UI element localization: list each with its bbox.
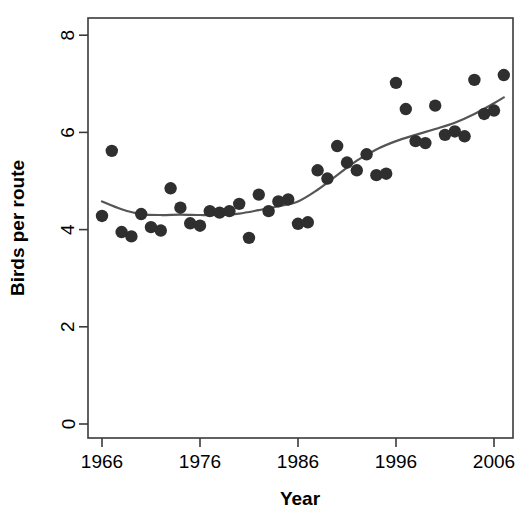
data-point [488, 104, 500, 116]
data-point [262, 205, 274, 217]
data-point [419, 137, 431, 149]
data-point [360, 148, 372, 160]
y-tick-label: 4 [58, 224, 79, 235]
x-tick-label: 1996 [375, 451, 417, 472]
y-axis-title: Birds per route [7, 160, 28, 296]
data-point [351, 164, 363, 176]
data-point [331, 140, 343, 152]
data-point [155, 224, 167, 236]
x-tick-label: 1976 [179, 451, 221, 472]
x-axis-title: Year [280, 488, 321, 509]
y-tick-label: 2 [58, 322, 79, 333]
x-tick-label: 1966 [81, 451, 123, 472]
data-point [233, 198, 245, 210]
data-point [390, 77, 402, 89]
data-point [429, 99, 441, 111]
data-point [282, 193, 294, 205]
y-tick-label: 8 [58, 30, 79, 41]
data-point [253, 188, 265, 200]
data-point [400, 103, 412, 115]
data-point [341, 156, 353, 168]
x-tick-label: 2006 [473, 451, 515, 472]
data-point [164, 182, 176, 194]
scatter-plot-svg: 02468 19661976198619962006 Year Birds pe… [0, 0, 530, 520]
data-point [223, 205, 235, 217]
trend-line-group [102, 97, 504, 215]
y-tick-label: 6 [58, 127, 79, 138]
x-axis: 19661976198619962006 [81, 438, 515, 472]
data-point [321, 172, 333, 184]
chart-container: 02468 19661976198619962006 Year Birds pe… [0, 0, 530, 520]
data-point [458, 130, 470, 142]
data-point [498, 69, 510, 81]
smoothed-trend-line [102, 97, 504, 215]
data-point [96, 210, 108, 222]
data-point [380, 168, 392, 180]
x-tick-label: 1986 [277, 451, 319, 472]
data-point [174, 202, 186, 214]
data-point [106, 145, 118, 157]
data-point [468, 74, 480, 86]
y-axis: 02468 [58, 30, 89, 429]
data-point [125, 230, 137, 242]
data-point [243, 232, 255, 244]
y-tick-label: 0 [58, 419, 79, 430]
data-point [194, 220, 206, 232]
data-point [135, 208, 147, 220]
data-points-group [96, 69, 510, 244]
data-point [311, 164, 323, 176]
data-point [302, 216, 314, 228]
